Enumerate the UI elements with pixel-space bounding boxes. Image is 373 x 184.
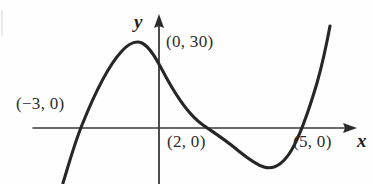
right-root-label: (5, 0) <box>293 133 332 150</box>
middle-root-label: (2, 0) <box>167 133 206 150</box>
left-root-label: (−3, 0) <box>16 95 65 112</box>
graph-figure: y x (0, 30) (−3, 0) (2, 0) (5, 0) <box>0 0 373 184</box>
x-axis-arrowhead <box>343 123 357 133</box>
plot-canvas <box>0 0 373 184</box>
y-intercept-label: (0, 30) <box>166 33 213 50</box>
x-axis-label: x <box>357 131 367 150</box>
y-axis-arrowhead <box>154 14 164 28</box>
y-axis-label: y <box>134 12 142 31</box>
